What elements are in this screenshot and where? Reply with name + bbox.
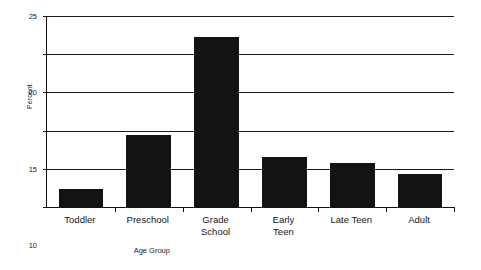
x-axis-label: Preschool	[114, 214, 182, 226]
x-tick-mark	[454, 207, 455, 212]
x-axis-title: Age Group	[46, 246, 258, 255]
bar-series	[47, 16, 454, 207]
bar	[126, 135, 171, 207]
x-tick-mark	[251, 207, 252, 212]
y-tick-mark: 0	[43, 207, 47, 208]
y-tick-label: 10	[29, 242, 37, 250]
bar	[398, 174, 443, 207]
bar	[59, 189, 104, 207]
y-tick-label: 25	[29, 13, 37, 21]
bar	[262, 157, 307, 207]
x-axis-label: Late Teen	[317, 214, 385, 226]
x-axis-label: Grade School	[182, 214, 250, 237]
bar	[330, 163, 375, 207]
x-axis-label: Toddler	[46, 214, 114, 226]
y-tick-label: 20	[29, 90, 37, 98]
x-axis-category-labels: ToddlerPreschoolGrade SchoolEarly TeenLa…	[46, 214, 453, 250]
x-axis-label: Adult	[385, 214, 453, 226]
y-tick-label: 15	[29, 166, 37, 174]
x-tick-mark	[183, 207, 184, 212]
x-tick-mark	[318, 207, 319, 212]
bar	[194, 37, 239, 207]
bar-chart: Percent 0510152025 ToddlerPreschoolGrade…	[0, 0, 481, 270]
plot-area: 0510152025	[46, 16, 454, 208]
x-tick-mark	[386, 207, 387, 212]
x-axis-label: Early Teen	[250, 214, 318, 237]
x-tick-mark	[115, 207, 116, 212]
